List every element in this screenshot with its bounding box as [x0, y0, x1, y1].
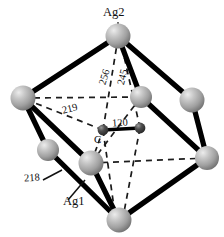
dashed-edge-left-to-inner — [23, 97, 141, 98]
silver-atom-ag2-top — [106, 24, 131, 49]
dashed-bond-c2-agbottom — [124, 128, 140, 212]
leader-line-218 — [43, 170, 62, 180]
silver-atom-inner-upper — [130, 86, 152, 108]
atom-label-ag2: Ag2 — [103, 6, 125, 19]
atom-label-carbon: C — [94, 134, 101, 145]
distance-label-218: 218 — [24, 172, 40, 184]
carbon-atom-c2 — [135, 123, 146, 134]
bond-right-lower-bottom — [119, 158, 207, 220]
silver-atom-left-upper — [11, 86, 36, 111]
distance-label-120: 120 — [112, 117, 128, 129]
silver-atom-bottom — [107, 208, 132, 233]
leader-lines — [43, 22, 118, 200]
silver-atom-right-lower — [195, 146, 219, 170]
bond-ag2-left-upper — [23, 36, 118, 98]
silver-atom-ag1-inner-lower — [79, 151, 104, 176]
silver-atom-left-lower — [37, 139, 59, 161]
atom-label-ag1: Ag1 — [63, 195, 85, 208]
silver-atom-right-upper — [180, 88, 205, 113]
dashed-edge-inner-to-right — [91, 158, 207, 163]
molecular-structure-figure: Ag2 Ag1 C 256 245 219 120 218 — [0, 0, 224, 237]
